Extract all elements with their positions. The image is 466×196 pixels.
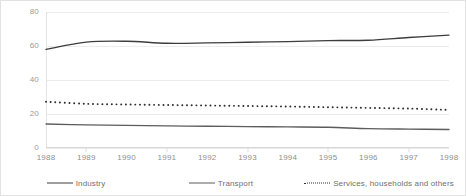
plot-area [46, 12, 449, 148]
y-tick-label: 0 [21, 144, 39, 152]
legend-swatch-solid-line-icon [47, 178, 73, 188]
line-chart: 020406080 198819891990199119921993199419… [0, 0, 466, 196]
series-line-services [46, 102, 449, 110]
x-tick-mark [86, 148, 87, 152]
x-axis-tick-labels: 1988198919901991199219931994199519961997… [46, 153, 449, 165]
series-line-industry [46, 35, 449, 49]
legend-swatch-dotted-line-icon [304, 178, 330, 188]
series-paths [46, 12, 449, 148]
x-tick-label: 1991 [158, 153, 177, 162]
x-tick-mark [328, 148, 329, 152]
y-tick-label: 80 [21, 8, 39, 16]
x-tick-label: 1994 [278, 153, 297, 162]
legend-label: Industry [76, 179, 106, 188]
y-tick-label: 20 [21, 110, 39, 118]
x-tick-mark [166, 148, 167, 152]
chart-legend: IndustryTransportServices, households an… [1, 175, 466, 191]
legend-label: Transport [218, 179, 253, 188]
legend-item-transport[interactable]: Transport [151, 178, 291, 188]
x-tick-mark [408, 148, 409, 152]
series-line-transport [46, 124, 449, 129]
x-tick-label: 1990 [117, 153, 136, 162]
x-tick-label: 1998 [440, 153, 459, 162]
x-tick-label: 1992 [198, 153, 217, 162]
x-tick-mark [247, 148, 248, 152]
x-tick-label: 1989 [77, 153, 96, 162]
x-tick-label: 1996 [359, 153, 378, 162]
legend-item-industry[interactable]: Industry [1, 178, 151, 188]
x-tick-label: 1995 [319, 153, 338, 162]
legend-swatch-solid-line-icon [189, 178, 215, 188]
legend-label: Services, households and others [333, 179, 454, 188]
legend-item-services[interactable]: Services, households and others [291, 178, 466, 188]
y-tick-label: 60 [21, 42, 39, 50]
x-tick-label: 1997 [399, 153, 418, 162]
x-tick-label: 1993 [238, 153, 257, 162]
x-tick-label: 1988 [37, 153, 56, 162]
y-tick-label: 40 [21, 76, 39, 84]
